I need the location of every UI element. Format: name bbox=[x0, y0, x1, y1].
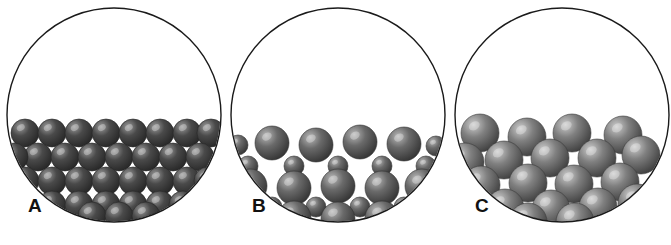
panel-c bbox=[0, 0, 671, 245]
panel-c-canvas bbox=[0, 0, 671, 245]
sphere bbox=[509, 203, 547, 241]
sphere-packing-figure: ABC bbox=[0, 0, 671, 245]
sphere-highlight bbox=[450, 192, 464, 205]
panel-c-label: C bbox=[475, 196, 489, 215]
